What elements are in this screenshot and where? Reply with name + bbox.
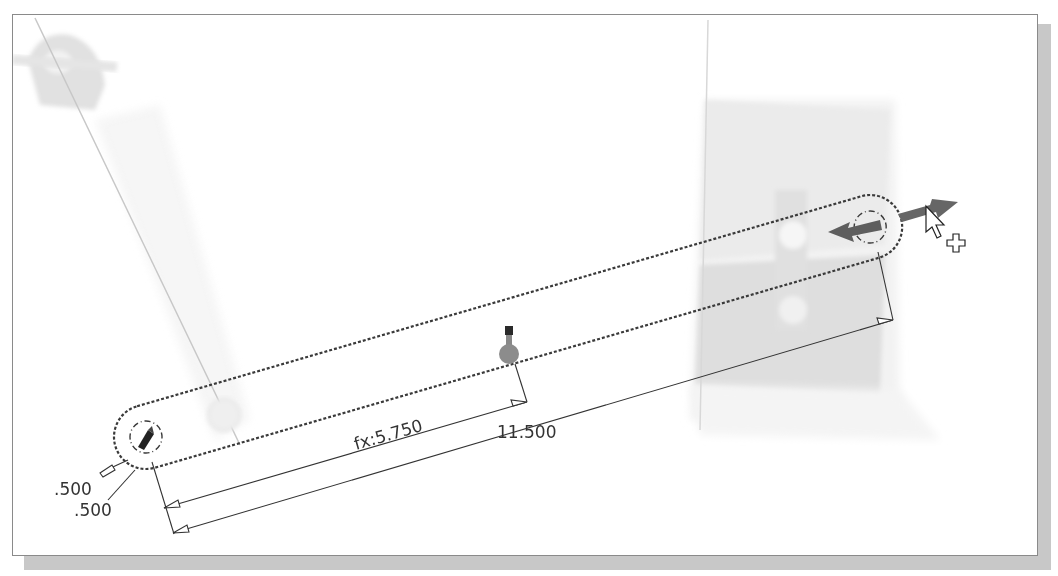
- sketch-scene[interactable]: .500 .500 fx:5.750 11.500: [0, 0, 1058, 576]
- midpoint-pin-icon[interactable]: [499, 326, 519, 364]
- hole-diameter-dimension-2[interactable]: .500: [74, 500, 112, 520]
- move-cursor-icon: [926, 206, 965, 252]
- midpoint-driven-dimension[interactable]: fx:5.750: [352, 415, 425, 454]
- overall-length-dimension[interactable]: 11.500: [497, 422, 556, 442]
- ghost-link-part: [12, 18, 250, 445]
- hole-diameter-dimension-1[interactable]: .500: [54, 479, 92, 499]
- left-center-point[interactable]: [138, 426, 154, 450]
